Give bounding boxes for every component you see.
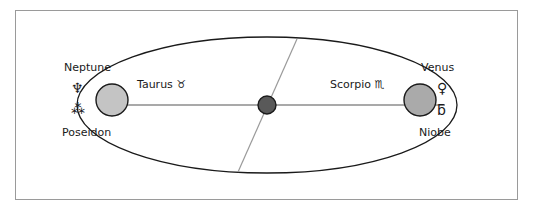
- venus-glyph-icon: ♀: [437, 81, 447, 95]
- label-scorpio: Scorpio ♏: [330, 79, 384, 90]
- astrological-orbit-figure: Neptune ♆ ⁂ Poseidon Taurus ♉ Scorpio ♏ …: [0, 0, 533, 213]
- niobe-glyph-icon: ƃ: [437, 103, 446, 117]
- neptune-body-circle: [96, 84, 128, 116]
- venus-body-circle: [404, 84, 436, 116]
- label-niobe: Niobe: [419, 127, 451, 138]
- focus-point-circle: [258, 96, 276, 114]
- neptune-glyph-icon: ♆: [71, 81, 84, 95]
- label-poseidon: Poseidon: [62, 127, 111, 138]
- label-neptune: Neptune: [64, 62, 111, 73]
- poseidon-glyph-icon: ⁂: [71, 102, 85, 116]
- label-taurus: Taurus ♉: [137, 79, 186, 90]
- label-venus: Venus: [421, 62, 454, 73]
